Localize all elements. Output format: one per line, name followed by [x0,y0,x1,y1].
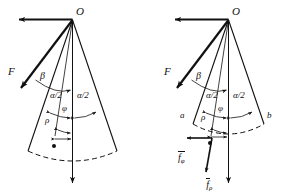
left-alpha-half-right-arc [75,112,97,118]
right-edge-label-b: b [267,111,272,120]
vector-subscript-f-rho: ρ [209,184,212,192]
left-angle-label-alpha-half-right: α/2 [77,91,89,100]
left-panel-graphics [19,20,117,184]
right-force-ray [177,20,229,88]
left-phi-arc [58,130,71,133]
right-edge-label-a: a [180,111,185,120]
right-angle-label-alpha-half-right: α/2 [233,91,245,100]
left-apex-label-O: O [76,6,84,17]
left-force-ray [21,20,73,88]
right-radius-label-rho: ρ [201,113,205,122]
right-sector-edge-right [229,20,265,124]
right-angle-label-phi: φ [218,104,223,113]
left-force-label-F: F [8,66,15,77]
left-radius-label-rho: ρ [45,116,49,125]
left-sector-edge-left [28,20,73,151]
right-panel-graphics [175,20,264,184]
left-angle-label-phi: φ [62,104,67,113]
right-alpha-half-left-arc [206,113,227,118]
overbar-f-phi [178,151,185,152]
left-sector-edge-right [73,20,118,151]
left-alpha-half-left-arc [50,113,71,118]
right-angle-label-beta: β [196,71,201,81]
right-alpha-half-right-arc [231,112,253,118]
left-element-point [52,144,56,148]
right-vector-label-f-phi: fφ [178,152,187,163]
left-angle-label-alpha-half-left: α/2 [50,91,62,100]
overbar-f-rho [206,178,210,179]
right-angle-label-alpha-half-left: α/2 [206,91,218,100]
right-vector-label-f-rho: fρ [206,179,212,190]
right-apex-label-O: O [232,6,240,17]
left-inner-ray [55,20,73,136]
vector-subscript-f-phi: φ [181,157,185,165]
figure-root: O F β α/2 α/2 φ ρ O F β α/2 α/2 φ ρ a b … [0,0,285,193]
right-phi-arc [214,130,227,133]
right-inner-ray [211,20,229,136]
right-force-label-F: F [164,66,171,77]
left-angle-label-beta: β [40,71,45,81]
